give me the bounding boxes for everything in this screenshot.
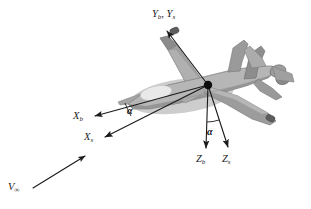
label-alpha-z: α <box>207 126 213 137</box>
label-y-axes: Yb, Ys <box>152 9 175 20</box>
diagram-canvas <box>0 0 311 209</box>
origin-point <box>204 81 212 89</box>
aircraft-illustration <box>118 26 294 125</box>
left-wingtip-pod <box>169 26 180 35</box>
label-alpha-x: α <box>127 105 133 116</box>
freestream-velocity-vector <box>33 156 85 188</box>
label-x-body: Xb <box>73 111 83 122</box>
label-freestream-velocity: V∞ <box>8 182 19 193</box>
aircraft-axes-figure: Yb, Ys Xb Xs Zb Zs V∞ α α <box>0 0 311 209</box>
label-x-stability: Xs <box>84 132 93 143</box>
label-z-stability: Zs <box>222 154 231 165</box>
label-z-body: Zb <box>196 154 205 165</box>
aircraft-vertical-tail-left <box>228 40 248 72</box>
alpha-arc-z <box>207 120 219 122</box>
